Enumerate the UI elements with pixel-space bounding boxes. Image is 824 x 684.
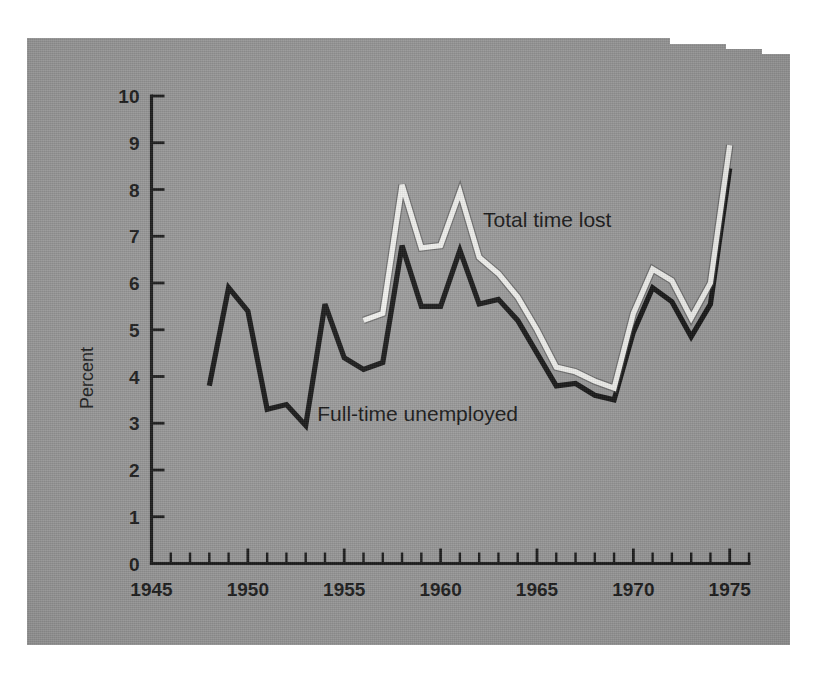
chart-annotations: Total time lostFull-time unemployed	[317, 208, 611, 425]
y-tick-label: 7	[129, 226, 140, 247]
y-axis-title: Percent	[77, 347, 97, 409]
x-tick-label: 1970	[612, 579, 654, 600]
y-tick-label: 1	[129, 507, 140, 528]
x-tick-label: 1945	[130, 579, 173, 600]
chart-plot-area: Percent 012345678910 1945195019551960196…	[27, 38, 790, 645]
x-tick-label: 1975	[709, 579, 752, 600]
series-line-total-time-lost	[364, 145, 730, 388]
chart-svg: Percent 012345678910 1945195019551960196…	[27, 38, 790, 645]
series-annotation-label: Total time lost	[483, 208, 612, 231]
y-tick-label: 6	[129, 273, 140, 294]
chart-series-group	[209, 145, 729, 426]
series-line-full-time-unemployed	[209, 168, 729, 425]
x-tick-label: 1965	[516, 579, 559, 600]
x-tick-label: 1960	[419, 579, 461, 600]
y-axis-title-text: Percent	[77, 347, 97, 409]
scanned-chart-card: Percent 012345678910 1945195019551960196…	[27, 38, 790, 645]
y-tick-label: 4	[129, 367, 140, 388]
y-tick-label: 2	[129, 460, 140, 481]
y-tick-label: 8	[129, 180, 140, 201]
y-tick-label: 9	[129, 133, 140, 154]
y-axis-ticks: 012345678910	[118, 86, 164, 575]
y-tick-label: 5	[129, 320, 140, 341]
x-tick-label: 1950	[227, 579, 269, 600]
y-tick-label: 0	[129, 554, 140, 575]
y-tick-label: 10	[118, 86, 139, 107]
y-tick-label: 3	[129, 413, 140, 434]
x-tick-label: 1955	[323, 579, 366, 600]
axis-lines	[152, 96, 750, 564]
series-annotation-label: Full-time unemployed	[317, 402, 518, 425]
x-axis-ticks: 1945195019551960196519701975	[130, 549, 751, 600]
